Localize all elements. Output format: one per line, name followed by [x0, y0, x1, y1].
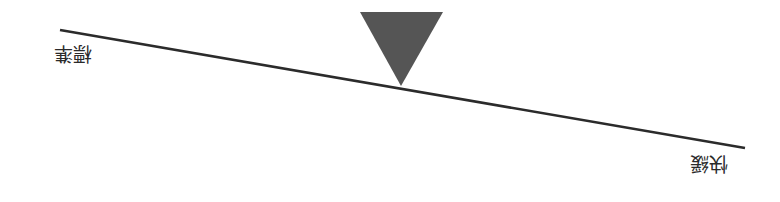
label-right: 快緩 — [690, 152, 728, 179]
label-left: 標準 — [54, 42, 92, 69]
diagram-canvas — [0, 0, 780, 202]
pivot-triangle-icon — [360, 12, 443, 86]
